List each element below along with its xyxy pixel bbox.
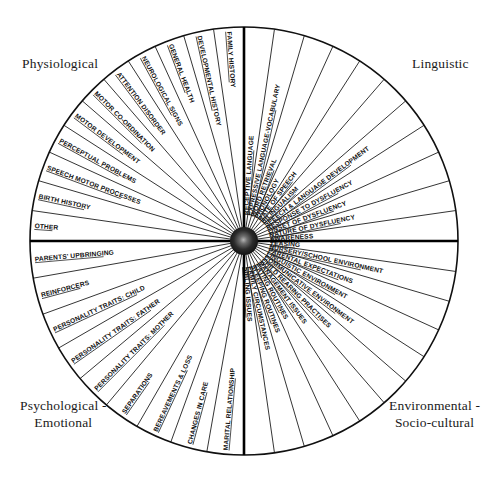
wheel-diagram: OTHERBIRTH HISTORYSPEECH MOTOR PROCESSES…	[0, 0, 494, 483]
wheel-hub	[230, 227, 258, 255]
quadrant-label-psychological: Psychological - Emotional	[20, 398, 107, 432]
quadrant-label-environmental: Environmental - Socio-cultural	[389, 398, 480, 432]
quadrant-label-linguistic: Linguistic	[412, 56, 469, 73]
quadrant-label-physiological: Physiological	[22, 56, 98, 73]
